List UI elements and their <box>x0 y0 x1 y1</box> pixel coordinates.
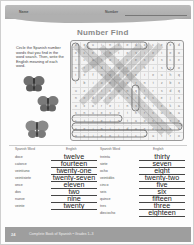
spanish-word: dos <box>15 190 21 194</box>
page-title: Number Find <box>77 28 129 37</box>
name-label: Name <box>19 10 29 14</box>
spanish-word: doce <box>15 155 23 159</box>
spanish-word: veintisiete <box>15 176 31 180</box>
butterfly-icon <box>23 75 45 93</box>
section-divider <box>9 145 187 146</box>
spanish-word: treinta <box>100 155 110 159</box>
answer-line <box>139 216 185 217</box>
book-title: Complete Book of Spanish • Grades 1–3 <box>29 232 94 236</box>
instructions-text: Circle the Spanish number words that you… <box>16 46 64 69</box>
spanish-word: catorce <box>15 162 27 166</box>
header-wave <box>5 15 191 23</box>
butterfly-icon <box>25 119 49 139</box>
number-label: Number <box>105 10 118 14</box>
spanish-word: cinco <box>100 183 108 187</box>
answer-line <box>51 209 97 210</box>
worksheet-page: Name Number Number Find Circle the Spani… <box>0 0 194 245</box>
header-band: Name Number <box>5 5 191 19</box>
spanish-word: quince <box>100 197 111 201</box>
spanish-word: tres <box>100 204 106 208</box>
right-spanish-header: Spanish Word <box>100 147 120 151</box>
spanish-word: dieciocho <box>100 211 115 215</box>
spanish-word: ocho <box>100 169 108 173</box>
word-search-grid: vquincedocexdeceintesieteoicatorcesdscen… <box>70 40 184 141</box>
spanish-word: seis <box>100 190 106 194</box>
butterfly-icon <box>37 95 59 113</box>
spanish-word: veinte <box>15 204 25 208</box>
number-field-line[interactable] <box>125 15 187 16</box>
spanish-word: veintiuno <box>15 169 29 173</box>
left-spanish-header: Spanish Word <box>15 147 35 151</box>
spanish-word: siete <box>100 162 108 166</box>
spanish-word: nueve <box>15 197 25 201</box>
footer-band: 24 Complete Book of Spanish • Grades 1–3 <box>5 227 191 242</box>
spanish-word: once <box>15 183 23 187</box>
spanish-word: veintidós <box>100 176 114 180</box>
right-english-header: English <box>153 147 163 151</box>
left-english-header: English <box>66 147 76 151</box>
circled-words-overlay <box>71 41 184 141</box>
page-number: 24 <box>11 232 15 237</box>
